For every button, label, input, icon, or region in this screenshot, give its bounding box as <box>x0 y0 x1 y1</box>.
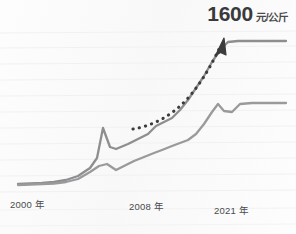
x-axis-tick-2008: 2008 年 <box>129 199 164 213</box>
trend-arrow-icon <box>133 38 226 129</box>
x-axis-tick-2021: 2021 年 <box>214 203 249 217</box>
x-axis-tick-2000: 2000 年 <box>10 197 45 211</box>
price-trend-chart: 1600 元/公斤 2000 年 2 <box>0 0 296 234</box>
